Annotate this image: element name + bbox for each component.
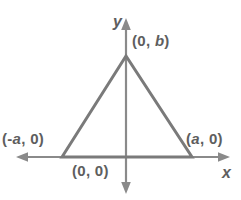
origin-point-label: (0, 0)	[72, 163, 109, 178]
y-axis-up-arrowhead-icon	[121, 18, 131, 30]
y-axis-group	[121, 18, 131, 194]
x-axis-label: x	[222, 165, 231, 181]
x-axis-left-arrowhead-icon	[16, 152, 28, 162]
right-vertex-point-label: (a, 0)	[186, 131, 223, 146]
apex-point-label: (0, b)	[132, 33, 170, 48]
x-axis-right-arrowhead-icon	[218, 152, 230, 162]
left-vertex-point-label: (-a, 0)	[2, 131, 44, 146]
y-axis-label: y	[113, 14, 122, 30]
y-axis-down-arrowhead-icon	[121, 182, 131, 194]
coordinate-geometry-figure: Example: (0, b) (-a, 0) (a, 0) (0, 0) y …	[0, 0, 241, 200]
triangle-axes-svg	[0, 0, 241, 200]
